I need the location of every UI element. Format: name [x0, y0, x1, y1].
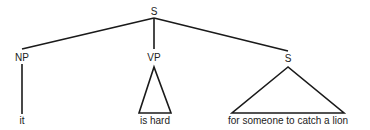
vp-node-label: VP — [147, 52, 161, 63]
branch-root-to-s — [154, 18, 288, 51]
root-node-label: S — [151, 6, 158, 17]
embedded-s-triangle — [232, 67, 344, 113]
branch-root-to-np — [22, 18, 154, 49]
np-node-label: NP — [15, 52, 29, 63]
embedded-s-node-label: S — [285, 53, 292, 64]
syntax-tree-diagram: S NP it VP is hard S for someone to catc… — [0, 0, 370, 130]
np-terminal-word: it — [20, 115, 25, 126]
embedded-s-terminal-phrase: for someone to catch a lion — [228, 115, 348, 126]
vp-terminal-phrase: is hard — [140, 115, 170, 126]
vp-triangle — [139, 67, 171, 113]
